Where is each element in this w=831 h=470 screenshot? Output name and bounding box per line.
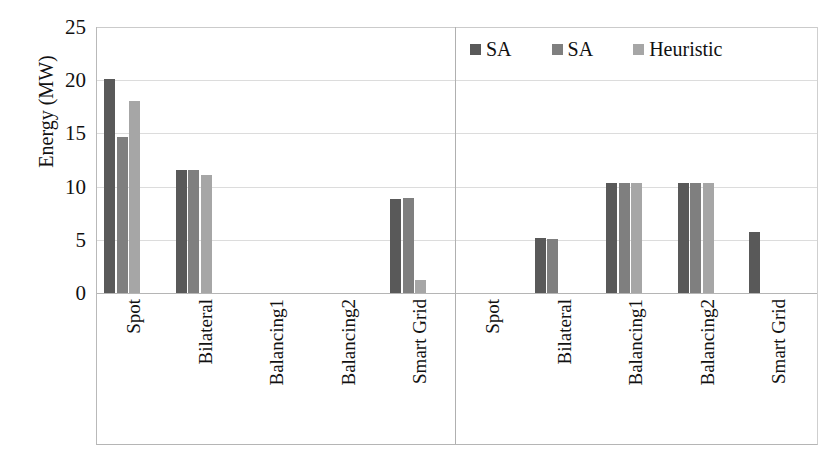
bar: [129, 101, 140, 293]
y-tick-label: 15: [30, 123, 86, 144]
legend-label: SA: [568, 38, 594, 61]
x-axis-category-label: Balancing1: [267, 299, 286, 386]
bar: [188, 170, 199, 293]
x-axis-category-label: Spot: [124, 299, 143, 334]
x-axis-category-label: Smart Grid: [769, 299, 788, 384]
gridline: [97, 80, 817, 81]
bar: [619, 183, 630, 293]
x-axis-category-label: Balancing2: [698, 299, 717, 386]
bar: [201, 175, 212, 293]
legend-swatch-icon: [470, 44, 481, 55]
x-axis-category-label: Balancing1: [626, 299, 645, 386]
category-label-band: SpotBilateralBalancing1Balancing2Smart G…: [96, 293, 818, 445]
chart-legend: SASAHeuristic: [470, 38, 722, 61]
bar: [631, 183, 642, 293]
bar: [749, 232, 760, 293]
bar: [117, 137, 128, 293]
y-tick-label: 0: [30, 283, 86, 304]
y-tick-label: 5: [30, 229, 86, 250]
bar: [606, 183, 617, 293]
legend-swatch-icon: [633, 44, 644, 55]
legend-item: SA: [470, 38, 512, 61]
legend-label: Heuristic: [649, 38, 722, 61]
bar: [104, 79, 115, 293]
x-axis-category-label: Spot: [483, 299, 502, 334]
x-axis-category-label: Balancing2: [339, 299, 358, 386]
bar: [176, 170, 187, 293]
gridline: [97, 133, 817, 134]
x-axis-category-label: Bilateral: [196, 299, 215, 364]
bar: [703, 183, 714, 293]
y-axis-tick-labels: 0510152025: [30, 0, 86, 470]
bar: [415, 280, 426, 293]
bar-chart: Energy (MW) 0510152025 SASAHeuristic Spo…: [0, 0, 831, 470]
bar: [547, 239, 558, 293]
gridline: [97, 27, 817, 28]
legend-swatch-icon: [552, 44, 563, 55]
x-axis-category-label: Smart Grid: [410, 299, 429, 384]
bar: [535, 238, 546, 293]
plot-area: [96, 27, 818, 293]
legend-item: Heuristic: [633, 38, 722, 61]
x-axis-category-label: Bilateral: [555, 299, 574, 364]
bar: [390, 199, 401, 293]
y-tick-label: 25: [30, 17, 86, 38]
bar: [678, 183, 689, 293]
y-tick-label: 10: [30, 176, 86, 197]
bar: [403, 198, 414, 293]
legend-item: SA: [552, 38, 594, 61]
y-tick-label: 20: [30, 70, 86, 91]
bar: [690, 183, 701, 293]
legend-label: SA: [486, 38, 512, 61]
